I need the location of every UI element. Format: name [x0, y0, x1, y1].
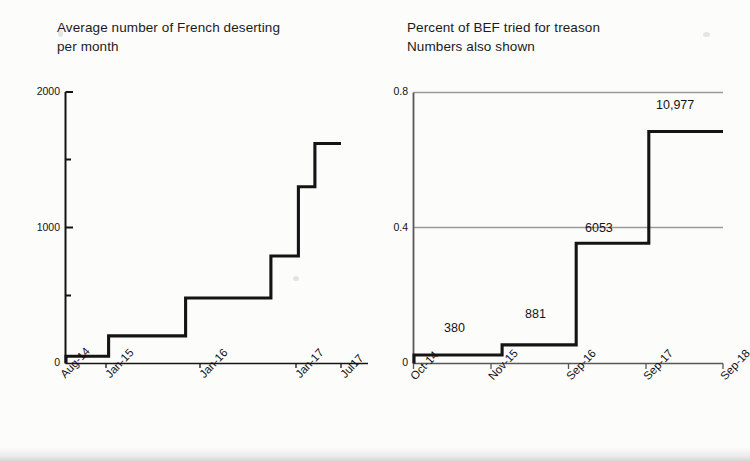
chart-panel-bef-treason: Percent of BEF tried for treason Numbers… — [375, 0, 750, 461]
plot-area-bef-treason — [375, 0, 750, 400]
chart-panel-french-desertions: Average number of French deserting per m… — [0, 0, 375, 461]
scan-edge-shadow — [0, 447, 750, 461]
scan-speck — [703, 32, 710, 37]
scan-speck — [58, 30, 63, 37]
plot-area-french-desertions — [0, 0, 375, 400]
scan-speck — [293, 276, 299, 281]
step-series-french-desertions — [66, 144, 341, 364]
figure-page: Average number of French deserting per m… — [0, 0, 750, 461]
data-label-6053: 6053 — [585, 221, 613, 235]
data-label-881: 881 — [525, 307, 546, 321]
data-label-10977: 10,977 — [656, 98, 694, 112]
data-label-380: 380 — [444, 321, 465, 335]
